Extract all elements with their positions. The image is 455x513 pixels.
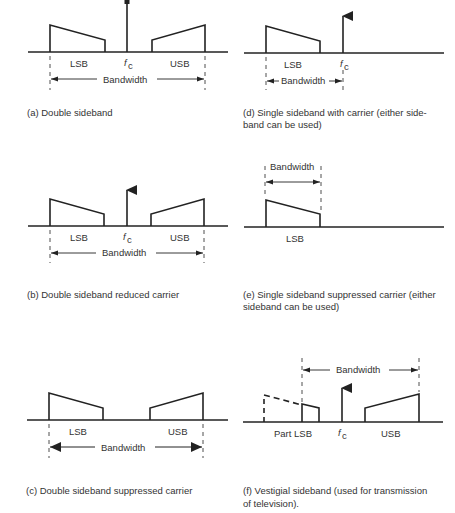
caption-c: (c) Double sideband suppressed carrier: [26, 485, 192, 496]
panel-e-ssb-suppressed-carrier: [244, 166, 444, 227]
caption-b: (b) Double sideband reduced carrier: [27, 289, 179, 300]
caption-f-line1: (f) Vestigial sideband (used for transmi…: [243, 485, 427, 496]
lsb-shape: [49, 393, 103, 420]
caption-e-line2: sideband can be used): [243, 301, 339, 312]
lsb-label: LSB: [69, 426, 87, 437]
usb-shape: [150, 393, 203, 420]
suppressed-lsb-dashed-top: [264, 395, 302, 405]
usb-label: USB: [168, 426, 188, 437]
part-lsb-label: Part LSB: [274, 428, 312, 439]
sideband-diagrams: LSB USB f c Bandwidth (a) Double sideban…: [0, 0, 455, 513]
usb-shape: [365, 394, 419, 422]
carrier-subscript: c: [127, 234, 132, 245]
usb-shape: [152, 25, 205, 52]
bandwidth-label: Bandwidth: [103, 74, 147, 85]
lsb-label: LSB: [286, 233, 304, 244]
carrier-subscript: c: [344, 61, 349, 72]
lsb-label: LSB: [70, 232, 88, 243]
usb-label: USB: [170, 232, 190, 243]
bandwidth-label: Bandwidth: [281, 75, 325, 86]
bandwidth-label: Bandwidth: [101, 442, 145, 453]
usb-label: USB: [170, 58, 190, 69]
lsb-shape: [266, 26, 320, 53]
lsb-label: LSB: [70, 58, 88, 69]
lsb-shape: [50, 25, 105, 52]
bandwidth-label: Bandwidth: [270, 161, 314, 172]
part-lsb-shape: [302, 404, 319, 422]
carrier-subscript: c: [128, 60, 133, 71]
caption-e-line1: (e) Single sideband suppressed carrier (…: [243, 289, 436, 300]
bandwidth-label: Bandwidth: [336, 364, 380, 375]
bandwidth-label: Bandwidth: [102, 247, 146, 258]
panel-d-single-sideband-with-carrier: [244, 16, 444, 90]
carrier-subscript: c: [342, 430, 347, 441]
usb-shape: [151, 199, 204, 226]
caption-d-line1: (d) Single sideband with carrier (either…: [243, 107, 427, 118]
caption-f-line2: of television).: [243, 498, 299, 509]
lsb-shape: [266, 200, 320, 227]
caption-a: (a) Double sideband: [27, 107, 113, 118]
lsb-label: LSB: [284, 59, 302, 70]
lsb-shape: [50, 199, 104, 226]
usb-label: USB: [381, 428, 401, 439]
caption-d-line2: band can be used): [243, 119, 322, 130]
